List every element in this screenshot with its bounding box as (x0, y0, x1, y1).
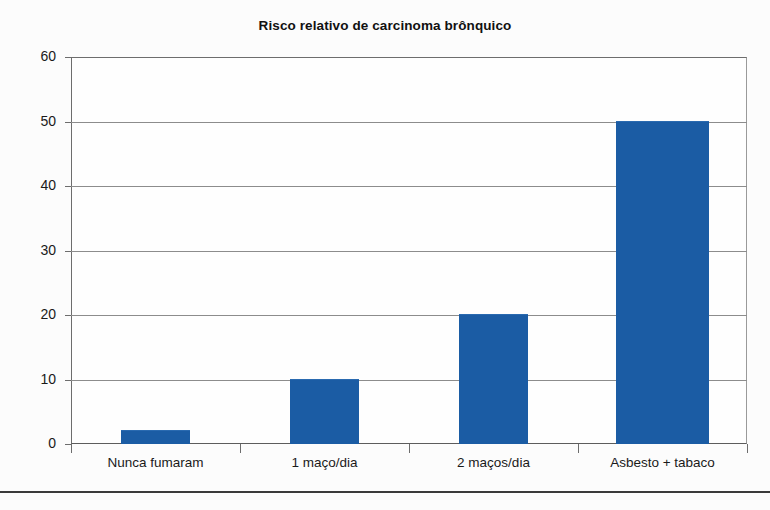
plot-area (71, 57, 747, 444)
bottom-divider (0, 491, 770, 493)
bar[interactable] (459, 314, 528, 444)
bar[interactable] (290, 379, 359, 445)
x-axis-label: Asbesto + tabaco (610, 455, 715, 470)
y-axis-label: 20 (16, 306, 56, 322)
x-axis-label: Nunca fumaram (107, 455, 203, 470)
y-axis-label: 40 (16, 177, 56, 193)
x-axis-label: 2 maços/dia (457, 455, 530, 470)
x-tick-2 (409, 444, 410, 453)
y-tick-30 (65, 251, 71, 252)
x-axis-label: 1 maço/dia (291, 455, 357, 470)
y-axis-label: 10 (16, 371, 56, 387)
x-tick-0 (71, 444, 72, 453)
y-tick-20 (65, 315, 71, 316)
y-tick-60 (65, 57, 71, 58)
chart-title: Risco relativo de carcinoma brônquico (0, 18, 770, 33)
bar[interactable] (616, 121, 709, 445)
x-tick-1 (240, 444, 241, 453)
y-axis-label: 50 (16, 113, 56, 129)
y-axis-label: 30 (16, 242, 56, 258)
y-axis-label: 0 (16, 435, 56, 451)
y-tick-50 (65, 122, 71, 123)
x-tick-3 (578, 444, 579, 453)
y-tick-10 (65, 380, 71, 381)
figure-container: Risco relativo de carcinoma brônquico 01… (0, 0, 770, 510)
bar[interactable] (121, 430, 190, 444)
x-tick-4 (747, 444, 748, 453)
y-axis-label: 60 (16, 48, 56, 64)
y-tick-40 (65, 186, 71, 187)
